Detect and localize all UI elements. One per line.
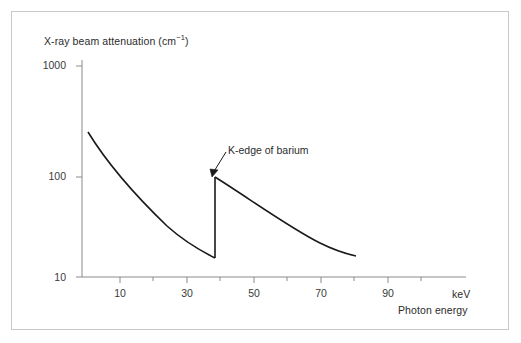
x-axis-minor-ticks [153,277,421,281]
y-tick-label-1000: 1000 [26,59,66,71]
y-tick-label-10: 10 [26,271,66,283]
annotation-kedge-label: K-edge of barium [228,144,309,156]
x-tick-label-10: 10 [105,287,135,299]
annotation-leader-line [210,152,226,177]
x-tick-label-50: 50 [239,287,269,299]
x-axis-major-ticks [120,277,388,283]
x-axis-title: Photon energy [398,304,468,316]
y-axis-title: X-ray beam attenuation (cm−1) [44,33,189,47]
x-tick-label-30: 30 [172,287,202,299]
y-axis-ticks [76,66,82,277]
y-axis-title-paren: ) [185,35,189,47]
curve-below-kedge [88,132,215,258]
x-tick-label-90: 90 [373,287,403,299]
y-axis-title-exponent: −1 [176,33,185,42]
figure-container: X-ray beam attenuation (cm−1) 1000 100 1… [0,0,521,343]
x-tick-label-70: 70 [306,287,336,299]
curve-above-kedge [215,177,356,256]
y-tick-label-100: 100 [26,170,66,182]
x-axis-unit-label: keV [452,288,470,300]
y-axis-title-text: X-ray beam attenuation (cm [44,35,176,47]
